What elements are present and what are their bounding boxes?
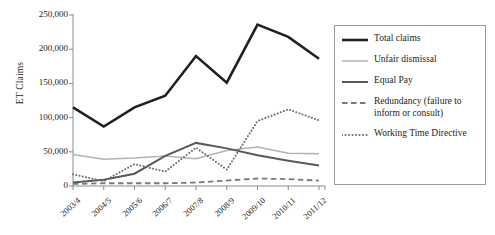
- dark-gray-solid-line-icon: [342, 76, 368, 88]
- legend-item-label: Working Time Directive: [374, 128, 467, 140]
- legend-item: Unfair dismissal: [342, 54, 479, 66]
- legend-item-label: Redundancy (failure to inform or consult…: [374, 96, 479, 119]
- legend-item: Redundancy (failure to inform or consult…: [342, 96, 479, 119]
- chart-legend: Total claimsUnfair dismissalEqual PayRed…: [334, 25, 486, 185]
- gray-dotted-line-icon: [342, 129, 368, 141]
- legend-item-label: Total claims: [374, 33, 421, 45]
- thick-black-solid-line-icon: [342, 34, 368, 46]
- et-claims-line-chart: 250,000200,000150,000100,00050,0000 2003…: [0, 0, 495, 235]
- light-gray-solid-line-icon: [342, 55, 368, 67]
- legend-item: Equal Pay: [342, 75, 479, 87]
- y-axis-title: ET Claims: [15, 43, 25, 123]
- legend-item-label: Equal Pay: [374, 75, 413, 87]
- plot-area: 250,000200,000150,000100,00050,0000 2003…: [0, 0, 330, 235]
- gray-dashed-line-icon: [342, 97, 368, 109]
- x-axis-tick-labels: 2003/42004/52005/62006/72007/82008/92009…: [0, 0, 330, 235]
- legend-item: Working Time Directive: [342, 128, 479, 140]
- legend-item-label: Unfair dismissal: [374, 54, 437, 66]
- legend-item: Total claims: [342, 33, 479, 45]
